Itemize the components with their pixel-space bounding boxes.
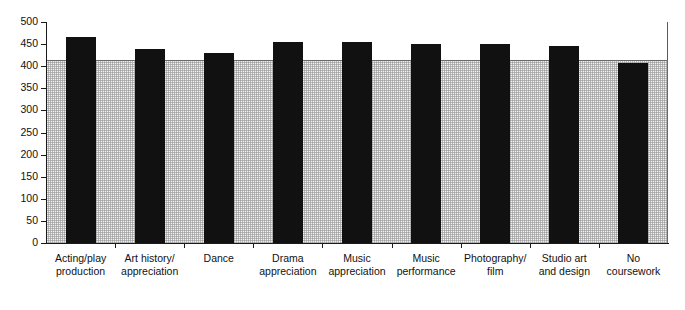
category-label-line: and design <box>524 265 604 278</box>
x-axis-tick <box>253 243 254 248</box>
bar <box>66 37 96 243</box>
y-axis-tick-label-text: 500 <box>2 16 38 26</box>
clipped-header-text: · · · · · · · · · · · · · <box>6 0 75 2</box>
category-label: Nocoursework <box>593 252 673 278</box>
y-axis-tick-label-text: 350 <box>2 82 38 92</box>
y-axis-tick-label-text: 200 <box>2 149 38 159</box>
x-axis-tick <box>184 243 185 248</box>
category-label-line: Music <box>317 252 397 265</box>
y-axis-tick-label: 200 <box>0 149 38 159</box>
y-axis-tick-label: 400 <box>0 60 38 70</box>
category-label-line: Art history/ <box>110 252 190 265</box>
bar <box>273 42 303 243</box>
y-axis-tick-label-text: 300 <box>2 104 38 114</box>
bar-chart: · · · · · · · · · · · · · 50045040035030… <box>0 0 685 310</box>
y-axis-tick-label: 500 <box>0 16 38 26</box>
bar <box>618 63 648 243</box>
category-label: Dance <box>179 252 259 265</box>
category-label-line: Studio art <box>524 252 604 265</box>
category-label-line: performance <box>386 265 466 278</box>
x-axis-tick <box>115 243 116 248</box>
y-axis-tick-label-text: 400 <box>2 60 38 70</box>
category-label: Art history/appreciation <box>110 252 190 278</box>
bar <box>135 49 165 243</box>
category-label: Photography/film <box>455 252 535 278</box>
bar <box>342 42 372 243</box>
category-label-line: Acting/play <box>41 252 121 265</box>
y-axis-tick-label-text: 0 <box>2 237 38 247</box>
x-axis-tick <box>322 243 323 248</box>
category-label-line: coursework <box>593 265 673 278</box>
y-axis-tick-label-text: 100 <box>2 193 38 203</box>
category-label: Musicappreciation <box>317 252 397 278</box>
y-axis-tick-label: 150 <box>0 171 38 181</box>
category-label: Acting/playproduction <box>41 252 121 278</box>
y-axis-tick-label: 100 <box>0 193 38 203</box>
category-label-line: appreciation <box>110 265 190 278</box>
x-axis-tick <box>530 243 531 248</box>
bar <box>204 53 234 244</box>
category-label-line: Music <box>386 252 466 265</box>
category-label-line: No <box>593 252 673 265</box>
y-axis-tick <box>41 243 47 244</box>
y-axis-tick-label-text: 50 <box>2 215 38 225</box>
category-label-line: film <box>455 265 535 278</box>
category-label-line: Dance <box>179 252 259 265</box>
x-axis-line <box>46 243 669 244</box>
y-axis-tick-label: 50 <box>0 215 38 225</box>
category-label-line: appreciation <box>248 265 328 278</box>
category-label: Musicperformance <box>386 252 466 278</box>
bar <box>411 44 441 243</box>
y-axis-tick-label-text: 150 <box>2 171 38 181</box>
category-label: Studio artand design <box>524 252 604 278</box>
x-axis-tick <box>392 243 393 248</box>
y-axis-tick-label: 300 <box>0 104 38 114</box>
bar <box>480 44 510 243</box>
category-label-line: appreciation <box>317 265 397 278</box>
x-axis-tick <box>461 243 462 248</box>
y-axis-tick-label: 250 <box>0 127 38 137</box>
y-axis-tick-label: 450 <box>0 38 38 48</box>
bar <box>549 46 579 243</box>
y-axis-tick-label-text: 250 <box>2 127 38 137</box>
bars-layer <box>46 22 668 243</box>
category-label-line: Photography/ <box>455 252 535 265</box>
y-axis-tick-label: 350 <box>0 82 38 92</box>
y-axis-tick-label-text: 450 <box>2 38 38 48</box>
x-axis-tick <box>599 243 600 248</box>
category-label-line: production <box>41 265 121 278</box>
category-label-line: Drama <box>248 252 328 265</box>
y-axis-tick-label: 0 <box>0 237 38 247</box>
category-labels: Acting/playproductionArt history/appreci… <box>46 252 668 302</box>
category-label: Dramaappreciation <box>248 252 328 278</box>
